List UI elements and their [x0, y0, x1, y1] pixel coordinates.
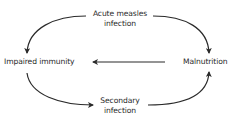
node-malnutrition: Malnutrition: [183, 57, 228, 67]
arrow-top-to-right: [153, 16, 209, 53]
node-top-line2: infection: [86, 19, 154, 29]
node-bottom-line2: infection: [94, 106, 146, 116]
arrow-bottom-to-right: [148, 72, 209, 105]
node-right-label: Malnutrition: [183, 57, 228, 66]
node-left-label: Impaired immunity: [4, 57, 75, 66]
node-secondary-infection: Secondary infection: [94, 96, 146, 116]
node-acute-measles-infection: Acute measles infection: [86, 9, 154, 29]
arrow-top-to-left: [27, 16, 86, 53]
node-impaired-immunity: Impaired immunity: [4, 57, 75, 67]
node-bottom-line1: Secondary: [94, 96, 146, 106]
arrow-left-to-bottom: [27, 73, 93, 105]
node-top-line1: Acute measles: [86, 9, 154, 19]
